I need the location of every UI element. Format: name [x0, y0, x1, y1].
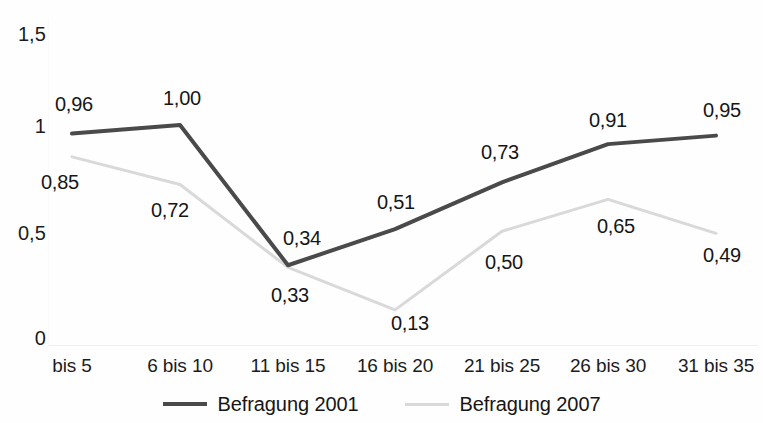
legend-label-befragung-2007: Befragung 2007	[460, 394, 601, 414]
legend-entry-befragung-2001[interactable]: Befragung 2001	[163, 394, 359, 414]
x-axis-tick-31-bis-35: 31 bis 35	[656, 356, 763, 376]
data-label-2007-6: 0,49	[692, 245, 752, 265]
y-axis-tick-1: 1	[2, 116, 46, 136]
chart-legend: Befragung 2001 Befragung 2007	[0, 389, 763, 419]
y-axis-tick-1-5: 1,5	[2, 24, 46, 44]
x-axis-tick-bis-5: bis 5	[12, 356, 132, 376]
legend-swatch-line-icon	[163, 402, 207, 406]
x-axis-tick-21-bis-25: 21 bis 25	[442, 356, 562, 376]
data-label-2001-5: 0,91	[578, 110, 638, 130]
y-axis-tick-0: 0	[2, 328, 46, 348]
data-label-2001-1: 1,00	[152, 88, 212, 108]
line-chart: 1,5 1 0,5 0 0,96 1,00 0,34 0,51 0,73 0,9…	[0, 0, 763, 423]
data-label-2001-3: 0,51	[366, 192, 426, 212]
x-axis-tick-11-bis-15: 11 bis 15	[228, 356, 348, 376]
legend-label-befragung-2001: Befragung 2001	[218, 394, 359, 414]
data-label-2001-2: 0,34	[272, 228, 332, 248]
data-label-2007-1: 0,72	[140, 200, 200, 220]
data-label-2007-3: 0,13	[380, 313, 440, 333]
legend-swatch-line-icon	[405, 403, 449, 406]
data-label-2001-0: 0,96	[44, 94, 104, 114]
legend-entry-befragung-2007[interactable]: Befragung 2007	[405, 394, 601, 414]
x-axis-tick-16-bis-20: 16 bis 20	[335, 356, 455, 376]
data-label-2007-4: 0,50	[474, 252, 534, 272]
data-label-2001-4: 0,73	[470, 142, 530, 162]
y-axis-tick-0-5: 0,5	[2, 223, 46, 243]
data-label-2007-5: 0,65	[586, 216, 646, 236]
x-axis-tick-6-bis-10: 6 bis 10	[120, 356, 240, 376]
x-axis-tick-26-bis-30: 26 bis 30	[548, 356, 668, 376]
data-label-2007-0: 0,85	[30, 172, 90, 192]
data-label-2007-2: 0,33	[260, 285, 320, 305]
data-label-2001-6: 0,95	[692, 100, 752, 120]
